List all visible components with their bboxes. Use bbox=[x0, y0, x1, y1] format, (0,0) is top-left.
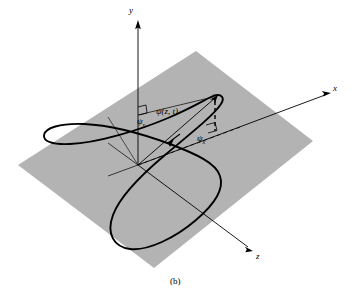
figure-container: y x z ψy ψ(z, t) ψx (b) bbox=[0, 0, 352, 305]
angle-label-psi-y-sub: y bbox=[143, 122, 146, 128]
angle-label-psi-y: ψy bbox=[137, 117, 145, 128]
angle-label-psi-x: ψx bbox=[197, 134, 205, 145]
angle-label-psi-z-t: ψ(z, t) bbox=[156, 107, 178, 116]
axis-label-x: x bbox=[333, 84, 337, 93]
figure-canvas bbox=[0, 0, 352, 305]
figure-caption: (b) bbox=[170, 276, 181, 286]
angle-label-psi-x-sub: x bbox=[203, 139, 206, 145]
reference-plane bbox=[18, 51, 313, 268]
axis-label-y: y bbox=[129, 6, 133, 15]
axis-label-z: z bbox=[256, 252, 260, 261]
